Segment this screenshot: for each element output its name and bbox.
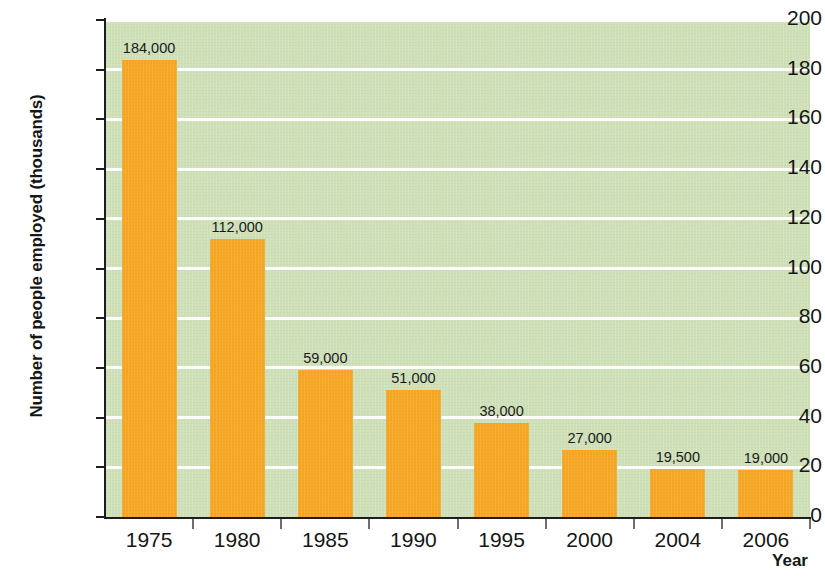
y-axis-tick (96, 268, 105, 270)
y-axis-tick-label: 80 (733, 304, 825, 328)
bar (474, 423, 529, 517)
gridline (105, 68, 810, 71)
bar (298, 370, 353, 517)
y-axis-tick-label: 40 (733, 404, 825, 428)
x-axis-tick-label: 2006 (711, 528, 821, 552)
y-axis-tick (96, 118, 105, 120)
bar (122, 60, 177, 517)
y-axis-tick (96, 466, 105, 468)
y-axis-tick (96, 69, 105, 71)
y-axis-tick-label: 160 (733, 105, 825, 129)
y-axis-tick-label: 200 (733, 6, 825, 30)
bar-value-label: 27,000 (530, 430, 650, 446)
y-axis-tick (96, 218, 105, 220)
y-axis-tick (96, 19, 105, 21)
bar-value-label: 184,000 (89, 40, 209, 56)
y-axis-tick-label: 100 (733, 255, 825, 279)
y-axis-tick-label: 60 (733, 354, 825, 378)
y-axis-tick (96, 317, 105, 319)
bar-chart: Number of people employed (thousands) 02… (0, 0, 825, 587)
bar (386, 390, 441, 517)
bar-value-label: 112,000 (177, 219, 297, 235)
y-axis-tick-label: 0 (733, 503, 825, 527)
plot-area (105, 20, 810, 517)
y-axis-tick-label: 140 (733, 155, 825, 179)
y-axis-tick (96, 367, 105, 369)
gridline (105, 20, 810, 22)
y-axis-tick-label: 120 (733, 205, 825, 229)
bar-value-label: 38,000 (442, 403, 562, 419)
bar-value-label: 59,000 (265, 350, 385, 366)
bar (650, 469, 705, 517)
x-axis-title: Year (700, 551, 808, 571)
y-axis-tick (96, 516, 105, 518)
gridline (105, 168, 810, 171)
bar (562, 450, 617, 517)
y-axis-title: Number of people employed (thousands) (27, 6, 47, 506)
y-axis-tick (96, 168, 105, 170)
bar-value-label: 51,000 (353, 370, 473, 386)
bar-value-label: 19,000 (706, 450, 825, 466)
y-axis-tick (96, 417, 105, 419)
bar (210, 239, 265, 517)
gridline (105, 118, 810, 121)
y-axis-tick-label: 180 (733, 56, 825, 80)
